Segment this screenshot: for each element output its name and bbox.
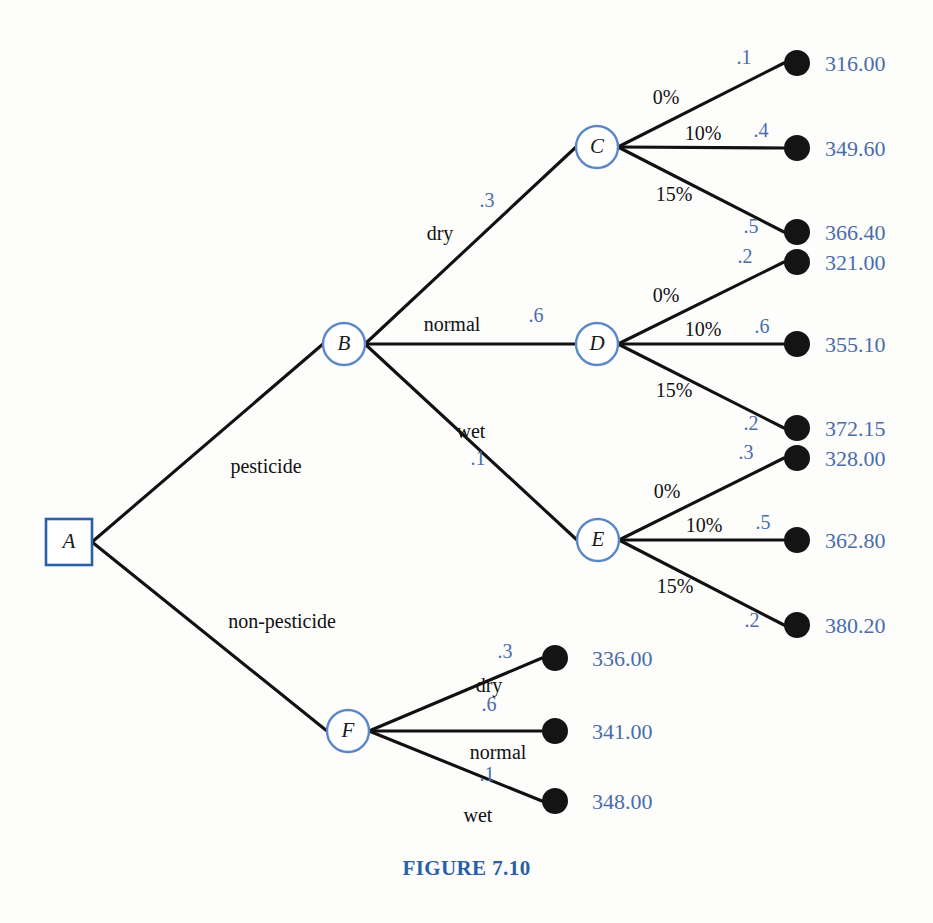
payoff-c-1: 349.60: [825, 136, 886, 161]
root-branch-label-0: pesticide: [230, 455, 301, 478]
chance-node-label-f: F: [341, 718, 355, 742]
edge-d-outcome-2: [618, 344, 784, 428]
weather-prob-f-1: .6: [482, 693, 497, 715]
terminal-dot-d-2: [784, 415, 810, 441]
rate-label-e-1: 10%: [686, 514, 723, 536]
payoff-e-2: 380.20: [825, 613, 886, 638]
rate-label-d-2: 15%: [656, 379, 693, 401]
prob-label-d-2: .2: [744, 412, 759, 434]
payoff-f-1: 341.00: [592, 719, 653, 744]
edge-b-to-e: [365, 344, 577, 540]
prob-label-e-1: .5: [756, 511, 771, 533]
prob-label-c-2: .5: [744, 215, 759, 237]
root-branch-label-1: non-pesticide: [228, 610, 336, 633]
edge-c-outcome-2: [618, 147, 784, 232]
chance-node-label-e: E: [591, 527, 605, 551]
rate-label-e-2: 15%: [657, 575, 694, 597]
chance-node-label-c: C: [590, 134, 605, 158]
weather-label-f-2: wet: [464, 804, 493, 826]
payoff-e-0: 328.00: [825, 446, 886, 471]
decision-node-label-a: A: [61, 529, 76, 553]
chance-node-label-d: D: [588, 331, 604, 355]
payoff-f-0: 336.00: [592, 646, 653, 671]
payoff-d-0: 321.00: [825, 250, 886, 275]
weather-label-f-1: normal: [470, 741, 527, 763]
weather-prob-b-1: .6: [529, 304, 544, 326]
payoff-e-1: 362.80: [825, 528, 886, 553]
weather-prob-b-2: .1: [471, 447, 486, 469]
terminal-dot-e-1: [784, 527, 810, 553]
weather-label-b-2: wet: [457, 420, 486, 442]
payoff-c-0: 316.00: [825, 51, 886, 76]
tree-edges: [92, 63, 784, 801]
payoff-d-1: 355.10: [825, 332, 886, 357]
payoff-c-2: 366.40: [825, 220, 886, 245]
terminal-dot-f-0: [542, 645, 568, 671]
terminal-dot-f-1: [542, 718, 568, 744]
edge-f-outcome-0: [369, 658, 542, 731]
payoff-d-2: 372.15: [825, 416, 886, 441]
terminal-dot-f-2: [542, 788, 568, 814]
rate-label-d-1: 10%: [685, 318, 722, 340]
terminal-dot-c-0: [784, 50, 810, 76]
terminal-dot-e-2: [784, 612, 810, 638]
weather-prob-f-0: .3: [498, 640, 513, 662]
prob-label-c-0: .1: [737, 46, 752, 68]
rate-label-d-0: 0%: [653, 284, 680, 306]
payoff-f-2: 348.00: [592, 789, 653, 814]
edge-c-outcome-1: [618, 147, 784, 148]
figure-caption: FIGURE 7.10: [0, 856, 933, 881]
weather-prob-b-0: .3: [480, 189, 495, 211]
terminal-dot-c-2: [784, 219, 810, 245]
rate-label-c-2: 15%: [656, 183, 693, 205]
terminal-dot-c-1: [784, 135, 810, 161]
weather-label-b-0: dry: [427, 222, 454, 245]
terminal-dot-d-0: [784, 249, 810, 275]
decision-tree-figure: ACDEBF pesticidenon-pesticidedry.3normal…: [0, 0, 933, 923]
terminal-dot-e-0: [784, 445, 810, 471]
prob-label-d-0: .2: [738, 245, 753, 267]
prob-label-e-2: .2: [745, 609, 760, 631]
rate-label-c-1: 10%: [685, 122, 722, 144]
prob-label-c-1: .4: [754, 119, 769, 141]
weather-prob-f-2: .1: [480, 763, 495, 785]
terminal-dot-d-1: [784, 331, 810, 357]
weather-label-b-1: normal: [424, 313, 481, 335]
tree-nodes: ACDEBF: [46, 50, 810, 814]
prob-label-e-0: .3: [739, 441, 754, 463]
edge-a-to-f: [92, 542, 327, 731]
rate-label-c-0: 0%: [653, 86, 680, 108]
chance-node-label-b: B: [338, 331, 351, 355]
prob-label-d-1: .6: [755, 315, 770, 337]
decision-tree-canvas: ACDEBF pesticidenon-pesticidedry.3normal…: [0, 0, 933, 923]
rate-label-e-0: 0%: [654, 480, 681, 502]
edge-a-to-b: [92, 344, 323, 542]
